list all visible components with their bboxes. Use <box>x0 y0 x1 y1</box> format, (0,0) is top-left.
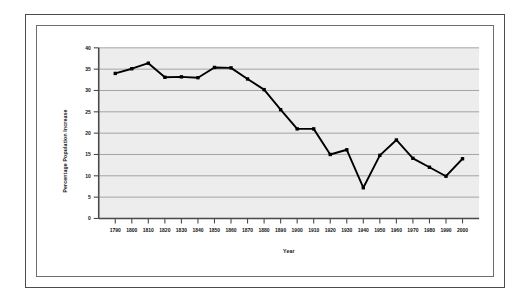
data-point-marker <box>345 148 348 151</box>
y-tick-label: 10 <box>37 173 91 179</box>
y-tick-label: 35 <box>37 66 91 72</box>
data-point-marker <box>312 127 315 130</box>
data-point-marker <box>163 76 166 79</box>
data-point-marker <box>428 166 431 169</box>
data-point-marker <box>213 66 216 69</box>
x-axis-title: Year <box>249 248 329 254</box>
data-point-marker <box>395 138 398 141</box>
data-point-marker <box>444 175 447 178</box>
data-point-marker <box>295 127 298 130</box>
data-point-marker <box>229 66 232 69</box>
data-point-marker <box>114 72 117 75</box>
data-point-marker <box>180 75 183 78</box>
data-point-marker <box>378 154 381 157</box>
y-tick-label: 30 <box>37 87 91 93</box>
data-point-marker <box>130 67 133 70</box>
chart-canvas: Percentage Population Increase 051015202… <box>37 26 493 276</box>
figure-root: Percentage Population Increase 051015202… <box>0 0 530 306</box>
y-tick-label: 25 <box>37 109 91 115</box>
outer-border: Percentage Population Increase 051015202… <box>25 14 505 288</box>
y-tick-label: 15 <box>37 151 91 157</box>
data-point-marker <box>246 77 249 80</box>
y-tick-label: 0 <box>37 215 91 221</box>
inner-border: Percentage Population Increase 051015202… <box>36 25 494 277</box>
x-tick-label: 2000 <box>452 227 474 233</box>
data-point-marker <box>262 88 265 91</box>
data-point-marker <box>196 76 199 79</box>
y-tick-label: 40 <box>37 45 91 51</box>
data-point-marker <box>461 157 464 160</box>
y-tick-label: 5 <box>37 194 91 200</box>
data-point-marker <box>279 108 282 111</box>
data-point-marker <box>411 157 414 160</box>
data-point-marker <box>329 153 332 156</box>
data-point-marker <box>147 61 150 64</box>
x-axis-ticks <box>115 218 462 223</box>
y-tick-label: 20 <box>37 130 91 136</box>
data-point-marker <box>362 186 365 189</box>
